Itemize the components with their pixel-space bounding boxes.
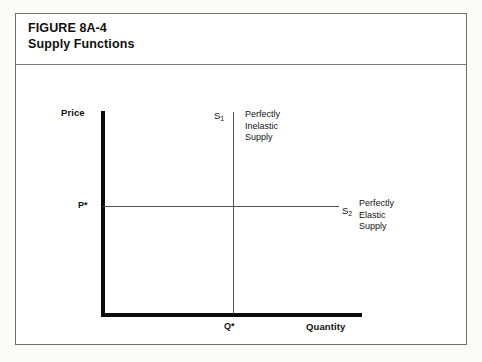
curve-label-s2-subscript: 2 — [348, 210, 352, 217]
y-axis-tick-pstar: P* — [78, 200, 88, 210]
curve-label-s2: S2 — [342, 205, 352, 216]
y-axis-label: Price — [61, 107, 85, 118]
figure-title-band: FIGURE 8A-4 Supply Functions — [16, 14, 466, 65]
curve-label-s1: S1 — [214, 110, 224, 121]
x-axis — [101, 313, 362, 317]
x-axis-label: Quantity — [306, 321, 345, 332]
curve-description-s2-line-1: Perfectly — [359, 198, 394, 210]
plot-area: Price Quantity P* Q* S1 Perfectly Inelas… — [16, 65, 468, 345]
curve-description-s1-line-3: Supply — [245, 132, 280, 144]
curve-description-s2-line-3: Supply — [359, 221, 394, 233]
figure-number: FIGURE 8A-4 — [28, 20, 466, 36]
curve-description-s2: Perfectly Elastic Supply — [359, 198, 394, 233]
curve-description-s1-line-1: Perfectly — [245, 109, 280, 121]
x-axis-tick-qstar: Q* — [224, 321, 235, 331]
curve-label-s1-subscript: 1 — [220, 115, 224, 122]
y-axis — [101, 111, 105, 317]
supply-curve-s2 — [103, 206, 339, 207]
curve-description-s1-line-2: Inelastic — [245, 121, 280, 133]
curve-description-s1: Perfectly Inelastic Supply — [245, 109, 280, 144]
curve-description-s2-line-2: Elastic — [359, 210, 394, 222]
figure-caption: Supply Functions — [28, 36, 466, 52]
supply-curve-s1 — [233, 112, 234, 314]
figure-box: FIGURE 8A-4 Supply Functions Price Quant… — [15, 13, 467, 345]
figure-screenshot: FIGURE 8A-4 Supply Functions Price Quant… — [0, 0, 482, 362]
